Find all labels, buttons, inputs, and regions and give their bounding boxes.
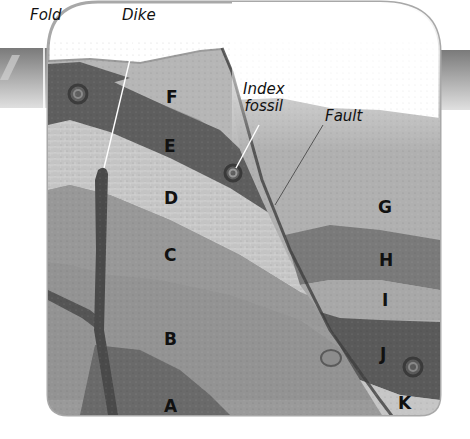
index-fossil-label: Index fossil [243,81,285,115]
layer-label-f: F [166,88,178,106]
layer-label-e: E [164,137,176,155]
layer-label-a: A [164,397,177,415]
right-side-band [440,50,470,110]
dike-label: Dike [122,7,156,24]
index-fossil-label-line2: fossil [243,98,285,115]
index-fossil-label-line1: Index [243,81,285,98]
geologic-diagram: Fold Dike Index fossil Fault A B C D E F… [0,0,470,439]
fossil-shell-b [321,350,341,366]
layer-label-c: C [164,246,176,264]
layer-label-d: D [164,189,178,207]
layer-label-h: H [379,251,393,269]
cross-section-illustration [0,0,470,439]
layer-label-j: J [380,345,386,363]
layer-label-i: I [382,291,388,309]
left-side-band [0,48,48,108]
layer-label-b: B [164,330,177,348]
layer-label-k: K [398,394,411,412]
fold-label: Fold [30,7,62,24]
layer-label-g: G [378,198,392,216]
fault-label: Fault [325,108,362,125]
